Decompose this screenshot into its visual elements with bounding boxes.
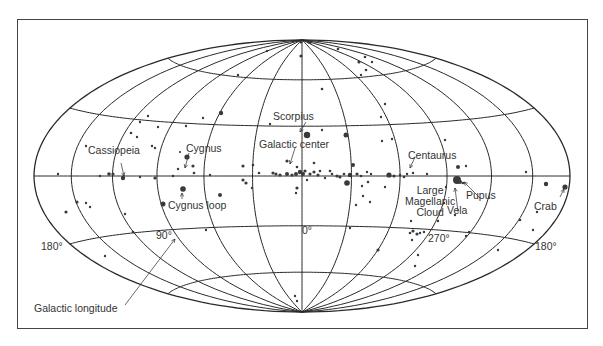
source-dot [367, 181, 370, 184]
source-dot [361, 185, 363, 187]
label-crab: Crab [534, 201, 557, 212]
source-dot [338, 175, 341, 178]
source-dot [392, 174, 395, 177]
source-dot [370, 173, 372, 175]
source-dot [89, 206, 91, 208]
source-dot [177, 168, 179, 170]
source-dot [331, 173, 334, 176]
source-dot [391, 138, 393, 140]
label-cygnus-loop: Cygnus loop [168, 200, 226, 211]
source-dot [321, 129, 323, 131]
source-dot [308, 40, 312, 44]
source-dot [299, 40, 302, 43]
source-dot [179, 151, 181, 153]
source-dot [380, 116, 382, 118]
longitude-tick-label: 270° [428, 233, 450, 244]
source-dot [202, 117, 204, 119]
label-galactic-center: Galactic center [259, 139, 329, 150]
coordinate-grid [34, 40, 570, 312]
source-dot [369, 201, 371, 203]
source-dot [258, 172, 261, 175]
source-dot [294, 172, 298, 176]
source-dot [157, 126, 159, 128]
source-dot [409, 232, 412, 235]
source-dot [410, 220, 412, 222]
source-dot [458, 180, 462, 184]
source-dot [412, 172, 414, 174]
source-dot [360, 175, 363, 178]
leader-arrow [300, 122, 306, 132]
source-dot [180, 186, 186, 192]
source-dot [465, 235, 467, 237]
source-dot [244, 181, 247, 184]
source-dot [295, 192, 297, 194]
source-dot [349, 227, 351, 229]
longitude-tick-label: 180° [535, 241, 557, 252]
source-dot [237, 74, 239, 76]
source-dot [344, 133, 349, 138]
source-dot [219, 111, 223, 115]
source-dot [296, 166, 299, 169]
source-dot [417, 254, 419, 256]
source-dot [384, 103, 386, 105]
source-dot [269, 123, 271, 125]
source-dot [185, 125, 187, 127]
source-dot [209, 174, 211, 176]
source-dot [456, 165, 460, 169]
source-dot [381, 140, 383, 142]
label-centaurus: Centaurus [408, 150, 456, 161]
source-dot [154, 147, 156, 149]
source-dot [406, 173, 408, 175]
source-dot [241, 164, 244, 167]
source-dot [497, 249, 499, 251]
source-dot [344, 180, 350, 186]
source-dot [329, 170, 332, 173]
source-dot [295, 186, 298, 189]
source-dot [193, 172, 196, 175]
source-dot [75, 200, 78, 203]
source-dot [343, 173, 346, 176]
source-dot [161, 202, 166, 207]
source-dot [362, 195, 364, 197]
source-dot [419, 232, 421, 234]
source-dot [411, 229, 414, 232]
source-dot [147, 115, 149, 117]
source-dot [355, 172, 358, 175]
source-dot [172, 175, 175, 178]
source-dot [351, 163, 355, 167]
source-dot [241, 178, 244, 181]
label-galactic-longitude: Galactic longitude [34, 303, 117, 314]
source-dot [312, 170, 315, 173]
source-dot [519, 219, 522, 222]
source-dot [348, 173, 352, 177]
source-dot [411, 239, 413, 241]
longitude-tick-label: 180° [41, 241, 63, 252]
source-dot [319, 170, 322, 173]
longitude-tick-label: 0° [302, 225, 312, 236]
source-dot [313, 162, 316, 165]
source-dot [423, 231, 425, 233]
source-dot [301, 172, 305, 176]
source-dot [107, 172, 111, 176]
source-dot [205, 229, 207, 231]
source-dot [337, 48, 340, 51]
source-dot [132, 231, 135, 234]
source-dot [465, 165, 467, 167]
source-dot [124, 213, 126, 215]
source-dot [130, 132, 133, 135]
source-dot [252, 164, 255, 167]
source-dot [321, 88, 324, 91]
source-dot [271, 171, 274, 174]
source-dot [525, 171, 527, 173]
source-dot [355, 204, 357, 206]
label-pupus: Pupus [466, 190, 496, 201]
source-dot [544, 182, 548, 186]
source-dot [364, 56, 367, 59]
source-dot [278, 173, 281, 176]
galactic-sky-map [0, 0, 603, 346]
source-dot [139, 121, 141, 123]
source-dot [151, 145, 153, 147]
source-dot [299, 54, 302, 57]
source-dot [444, 139, 446, 141]
source-dot [308, 172, 311, 175]
